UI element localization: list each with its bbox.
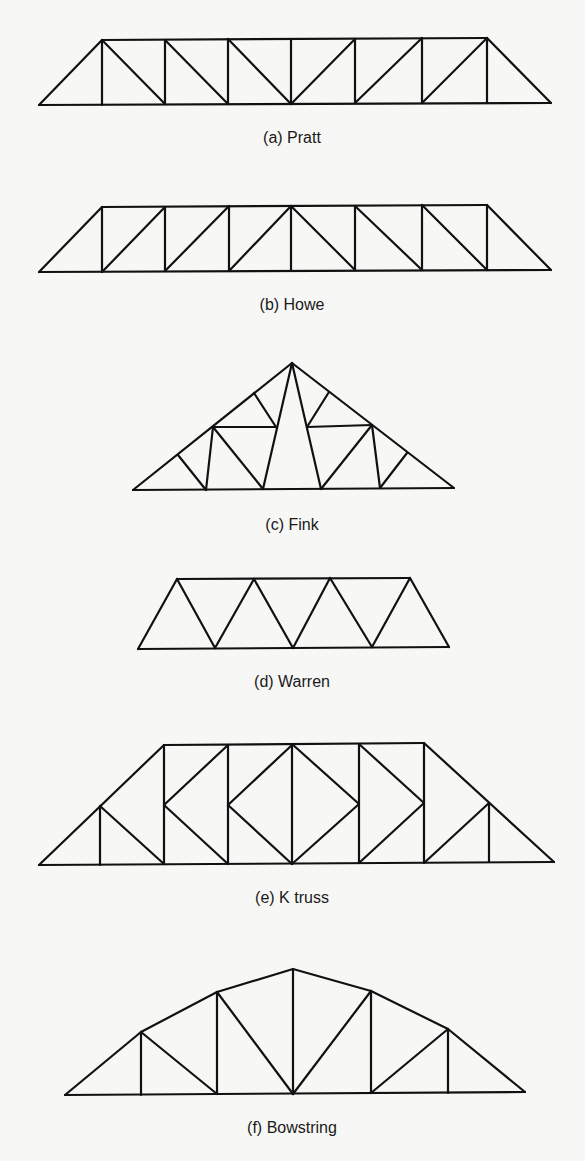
- truss-member: [215, 579, 254, 648]
- truss-member: [133, 488, 454, 490]
- truss-member: [138, 579, 177, 649]
- truss-member: [217, 992, 293, 1094]
- truss-member: [102, 38, 487, 40]
- truss-member: [177, 578, 410, 579]
- truss-label-warren: (d) Warren: [254, 673, 330, 690]
- truss-member: [102, 207, 165, 272]
- truss-member: [410, 578, 449, 647]
- truss-k-truss: (e) K truss: [39, 743, 554, 906]
- truss-member: [164, 745, 228, 805]
- truss-member: [228, 805, 292, 864]
- truss-member: [141, 1032, 217, 1094]
- truss-member: [229, 206, 291, 271]
- truss-member: [371, 1029, 448, 1093]
- truss-warren: (d) Warren: [138, 578, 449, 690]
- truss-member: [291, 206, 355, 270]
- truss-member: [424, 803, 489, 863]
- truss-member: [293, 969, 371, 991]
- truss-member: [448, 1029, 525, 1092]
- truss-member: [228, 39, 291, 104]
- truss-member: [292, 744, 359, 804]
- truss-member: [39, 207, 102, 272]
- truss-label-k-truss: (e) K truss: [255, 889, 329, 906]
- truss-member: [372, 578, 410, 647]
- truss-label-pratt: (a) Pratt: [263, 129, 321, 146]
- truss-member: [330, 578, 372, 647]
- truss-member: [213, 427, 263, 489]
- truss-member: [307, 392, 329, 427]
- truss-member: [228, 745, 292, 805]
- truss-member: [307, 425, 372, 427]
- truss-member: [217, 969, 293, 992]
- truss-member: [141, 992, 217, 1032]
- truss-member: [100, 806, 164, 864]
- truss-member: [177, 579, 215, 648]
- truss-member: [292, 804, 359, 864]
- truss-member: [293, 991, 371, 1094]
- truss-label-fink: (c) Fink: [265, 516, 319, 533]
- truss-types-diagram: (a) Pratt (b) Howe (c) Fink (d) Warren (…: [0, 0, 585, 1161]
- truss-member: [39, 862, 554, 865]
- truss-pratt: (a) Pratt: [39, 38, 551, 146]
- truss-member: [65, 1032, 141, 1095]
- truss-bowstring: (f) Bowstring: [65, 969, 525, 1136]
- truss-member: [39, 103, 551, 105]
- truss-member: [102, 205, 487, 207]
- truss-member: [165, 40, 228, 104]
- truss-member: [293, 578, 330, 648]
- truss-label-bowstring: (f) Bowstring: [247, 1119, 337, 1136]
- truss-member: [291, 39, 355, 104]
- truss-howe: (b) Howe: [39, 205, 551, 313]
- truss-member: [372, 425, 380, 488]
- truss-member: [102, 40, 165, 104]
- truss-member: [487, 205, 551, 270]
- truss-member: [355, 206, 422, 270]
- truss-member: [487, 38, 551, 103]
- truss-member: [371, 991, 448, 1029]
- truss-member: [254, 393, 276, 427]
- truss-label-howe: (b) Howe: [260, 296, 325, 313]
- truss-member: [359, 803, 424, 863]
- truss-member: [321, 425, 372, 489]
- truss-fink: (c) Fink: [133, 363, 454, 533]
- truss-member: [254, 579, 293, 648]
- truss-member: [422, 205, 487, 270]
- truss-member: [359, 744, 424, 803]
- truss-member: [39, 270, 551, 272]
- truss-member: [178, 455, 206, 490]
- truss-member: [380, 453, 407, 488]
- truss-member: [206, 427, 213, 490]
- truss-member: [355, 38, 422, 103]
- truss-member: [164, 805, 228, 864]
- truss-member: [165, 206, 229, 271]
- truss-member: [39, 40, 102, 105]
- truss-member: [422, 38, 487, 103]
